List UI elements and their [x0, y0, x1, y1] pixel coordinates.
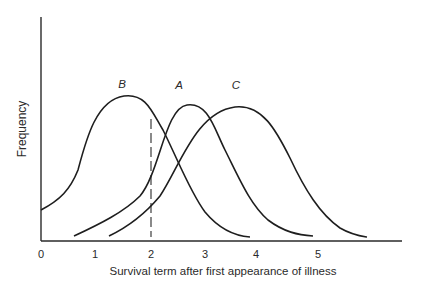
curve-b-label: B: [118, 78, 126, 90]
x-tick-4: 4: [253, 248, 259, 260]
y-axis-label: Frequency: [15, 101, 29, 158]
curve-a-label: A: [174, 79, 183, 91]
curve-a: [74, 105, 313, 236]
x-tick-1: 1: [92, 248, 98, 260]
curve-c: [109, 107, 367, 237]
x-tick-3: 3: [202, 248, 208, 260]
x-axis-label: Survival term after first appearance of …: [110, 265, 337, 277]
x-tick-0: 0: [38, 248, 44, 260]
x-tick-2: 2: [148, 248, 154, 260]
survival-chart: Frequency 0 1 2 3 4 5 Survival term afte…: [0, 0, 421, 289]
curve-b: [41, 96, 250, 237]
curve-c-label: C: [232, 79, 241, 91]
x-tick-5: 5: [315, 248, 321, 260]
